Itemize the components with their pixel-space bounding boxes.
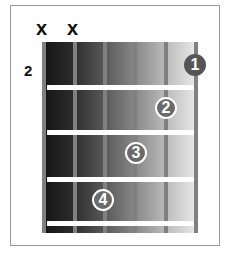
- string-4: [133, 42, 137, 233]
- fretboard: [44, 42, 198, 233]
- mute-x-icon: x: [67, 18, 78, 38]
- fret-line: [47, 221, 194, 226]
- finger-marker: 4: [92, 189, 114, 211]
- finger-marker: 2: [155, 97, 177, 119]
- finger-marker: 1: [184, 54, 206, 76]
- start-fret-number: 2: [24, 62, 32, 79]
- fret-line: [47, 130, 194, 135]
- fret-line: [47, 177, 194, 182]
- string-5: [164, 42, 168, 233]
- string-1: [42, 42, 46, 233]
- fret-line: [47, 85, 194, 90]
- finger-marker: 3: [125, 142, 147, 164]
- mute-x-icon: x: [36, 18, 47, 38]
- string-2: [73, 42, 77, 233]
